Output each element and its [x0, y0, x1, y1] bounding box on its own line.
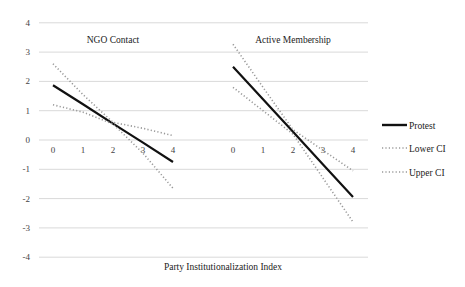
chart: 43210-1-2-3-4 0123401234 NGO Contact Act…: [0, 0, 465, 287]
x-tick-label: 4: [171, 145, 176, 155]
y-tick-label: -1: [23, 164, 31, 174]
x-tick-label: 2: [291, 145, 296, 155]
panel-title-ngo-contact: NGO Contact: [87, 35, 140, 45]
y-tick-label: 0: [26, 135, 31, 145]
y-tick-label: -2: [23, 194, 31, 204]
x-tick-label: 1: [81, 145, 86, 155]
y-tick-label: -4: [23, 252, 31, 262]
y-tick-label: 2: [26, 76, 31, 86]
legend-label-upper-ci: Upper CI: [409, 168, 445, 178]
chart-canvas: 43210-1-2-3-4 0123401234 NGO Contact Act…: [0, 0, 465, 287]
x-tick-label: 0: [51, 145, 56, 155]
y-tick-label: 3: [26, 47, 31, 57]
x-tick-label: 2: [111, 145, 116, 155]
legend-label-lower-ci: Lower CI: [409, 144, 446, 154]
gridlines: [39, 23, 368, 257]
legend-label-protest: Protest: [409, 121, 436, 131]
y-tick-label: -3: [23, 223, 31, 233]
legend: Protest Lower CI Upper CI: [382, 121, 446, 178]
y-tick-label: 1: [26, 106, 31, 116]
y-axis-ticks: 43210-1-2-3-4: [23, 18, 31, 262]
x-tick-label: 0: [231, 145, 236, 155]
series-lines: [53, 44, 353, 222]
panel-title-active-membership: Active Membership: [255, 35, 331, 45]
x-tick-label: 1: [261, 145, 266, 155]
series-protest-line: [233, 67, 353, 197]
y-tick-label: 4: [26, 18, 31, 28]
x-tick-label: 4: [351, 145, 356, 155]
x-axis-title: Party Institutionalization Index: [164, 262, 282, 272]
